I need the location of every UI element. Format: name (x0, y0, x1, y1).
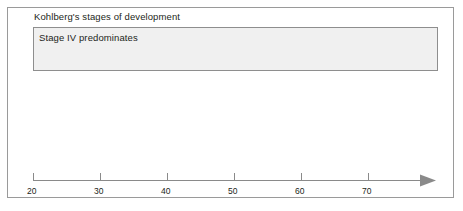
axis-tick-label-50: 50 (228, 186, 237, 196)
axis-tick-label-30: 30 (94, 186, 103, 196)
caption-remnant (48, 202, 448, 211)
axis-tick-label-40: 40 (161, 186, 170, 196)
axis-tick-label-20: 20 (27, 186, 36, 196)
axis-tick-labels: 20 30 40 50 60 70 (0, 0, 463, 211)
axis-tick-label-60: 60 (295, 186, 304, 196)
axis-tick-label-70: 70 (362, 186, 371, 196)
figure-container: Kohlberg's stages of development Stage I… (0, 0, 463, 211)
